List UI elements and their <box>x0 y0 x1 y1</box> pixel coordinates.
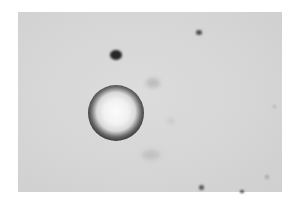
faint-speck-far-right <box>273 105 276 108</box>
debris-cluster <box>110 50 122 60</box>
bubble <box>88 85 144 141</box>
smudge-center <box>146 78 160 88</box>
micrograph-frame <box>18 12 282 192</box>
debris-bottom-right <box>240 190 244 193</box>
debris-bottom <box>199 185 204 190</box>
smudge-lower <box>142 150 160 160</box>
debris-small-top-right <box>196 30 202 35</box>
smudge-mid-right <box>168 118 174 124</box>
faint-speck-right <box>265 175 269 179</box>
